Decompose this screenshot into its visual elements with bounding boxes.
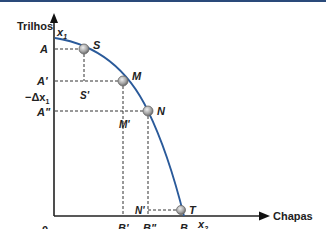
point-N	[143, 106, 153, 116]
label-S: S	[93, 39, 101, 51]
label-A: A	[39, 43, 48, 55]
y-axis-title: Trilhos	[17, 20, 53, 32]
y-axis	[50, 13, 58, 216]
label-delta-x1: −Δx1	[25, 91, 49, 105]
x-axis-title: Chapas	[273, 210, 313, 222]
label-T: T	[189, 204, 197, 216]
label-B-prime: B'	[118, 222, 129, 229]
label-M: M	[132, 70, 142, 82]
label-A-prime: A'	[36, 75, 48, 87]
point-T	[177, 206, 186, 215]
label-B: B	[180, 222, 188, 229]
x-axis-variable: x2	[197, 218, 208, 229]
guide-lines	[55, 49, 181, 216]
point-M	[118, 76, 128, 86]
label-B-double-prime: B"	[143, 222, 157, 229]
x-axis-arrow-icon	[259, 212, 270, 221]
label-N: N	[157, 105, 166, 117]
ppf-diagram: Trilhos x1 Chapas x2 0 S M N T A A' −Δx1…	[0, 0, 326, 229]
label-A-double-prime: A"	[36, 106, 51, 118]
label-N-prime: N'	[135, 205, 145, 216]
label-M-prime: M'	[119, 119, 130, 130]
point-S	[79, 44, 89, 54]
y-axis-variable: x1	[56, 26, 67, 40]
origin-label: 0	[42, 224, 48, 229]
label-S-prime: S'	[80, 90, 90, 101]
x-axis	[54, 212, 270, 221]
